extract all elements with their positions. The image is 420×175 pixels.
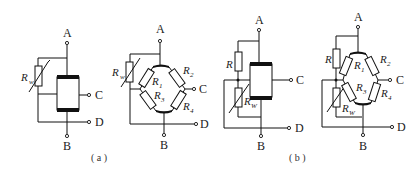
svg-text:A: A — [354, 10, 363, 24]
svg-text:C: C — [95, 88, 103, 102]
svg-text:4: 4 — [190, 107, 194, 115]
svg-text:C: C — [296, 73, 304, 87]
rw-label: R — [20, 71, 28, 83]
terminal-a-label: A — [63, 26, 72, 40]
terminal-c[interactable] — [388, 78, 391, 81]
svg-text:R: R — [380, 87, 388, 99]
circuit-a-simplified: A R w C D B — [20, 26, 104, 153]
terminal-c[interactable] — [87, 93, 90, 96]
svg-text:D: D — [95, 115, 104, 129]
svg-text:D: D — [200, 117, 209, 131]
terminal-a[interactable] — [257, 28, 260, 31]
caption-b: ( b ) — [289, 152, 306, 164]
svg-text:A: A — [255, 13, 264, 27]
svg-text:w: w — [120, 73, 125, 81]
svg-text:B: B — [160, 138, 168, 152]
svg-text:w: w — [29, 78, 34, 86]
svg-text:R: R — [353, 59, 361, 71]
svg-text:W: W — [349, 109, 356, 117]
svg-text:R: R — [111, 66, 119, 78]
svg-text:R: R — [153, 89, 161, 101]
terminal-c[interactable] — [289, 78, 292, 81]
svg-text:R: R — [341, 102, 349, 114]
terminal-d[interactable] — [390, 125, 393, 128]
terminal-d[interactable] — [87, 120, 90, 123]
terminal-a[interactable] — [65, 41, 68, 44]
svg-text:R: R — [324, 53, 332, 65]
circuit-b-simplified: A R R W C D B — [224, 13, 304, 153]
terminal-a[interactable] — [356, 25, 359, 28]
r1-resistor — [339, 56, 352, 75]
svg-text:2: 2 — [190, 71, 194, 79]
terminal-a[interactable] — [158, 39, 161, 42]
svg-text:D: D — [295, 121, 304, 135]
circuit-a-bridge: A R w R 1 R 3 R 2 R 4 — [111, 22, 209, 152]
terminal-b[interactable] — [65, 134, 68, 137]
svg-text:C: C — [396, 73, 404, 87]
terminal-c[interactable] — [192, 87, 195, 90]
svg-text:W: W — [251, 102, 258, 110]
svg-text:2: 2 — [387, 60, 391, 68]
terminal-b[interactable] — [259, 134, 262, 137]
svg-text:4: 4 — [388, 94, 392, 102]
terminal-d[interactable] — [287, 126, 290, 129]
svg-text:R: R — [379, 53, 387, 65]
svg-text:R: R — [182, 64, 190, 76]
svg-text:3: 3 — [362, 88, 367, 96]
rw-resistor-a1 — [35, 66, 42, 86]
svg-text:R: R — [182, 100, 190, 112]
sensor-box-a1 — [57, 77, 79, 110]
svg-text:B: B — [257, 139, 265, 153]
rw-resistor-a2 — [126, 62, 133, 82]
terminal-b[interactable] — [361, 133, 364, 136]
svg-text:1: 1 — [361, 66, 365, 74]
svg-text:B: B — [359, 139, 367, 153]
r-resistor-b2 — [333, 49, 340, 68]
rw-resistor-b1 — [235, 88, 242, 107]
svg-text:R: R — [355, 81, 363, 93]
svg-text:3: 3 — [160, 96, 165, 104]
r-resistor-b1 — [235, 52, 242, 71]
r3-resistor — [342, 82, 357, 101]
svg-text:D: D — [397, 120, 406, 134]
r4-resistor — [368, 82, 380, 101]
svg-text:R: R — [225, 58, 233, 70]
svg-text:A: A — [156, 22, 165, 36]
bridge-compensation-diagram: A R w C D B A — [0, 0, 420, 175]
terminal-d[interactable] — [194, 122, 197, 125]
terminal-b[interactable] — [162, 133, 165, 136]
sensor-box-b1 — [250, 64, 272, 97]
svg-text:B: B — [63, 139, 71, 153]
circuit-b-bridge: A R R W R 1 R 3 R 2 — [322, 10, 406, 153]
svg-text:R: R — [151, 75, 159, 87]
svg-text:C: C — [199, 82, 207, 96]
caption-a: ( a ) — [91, 152, 107, 164]
r2-resistor — [365, 56, 379, 75]
